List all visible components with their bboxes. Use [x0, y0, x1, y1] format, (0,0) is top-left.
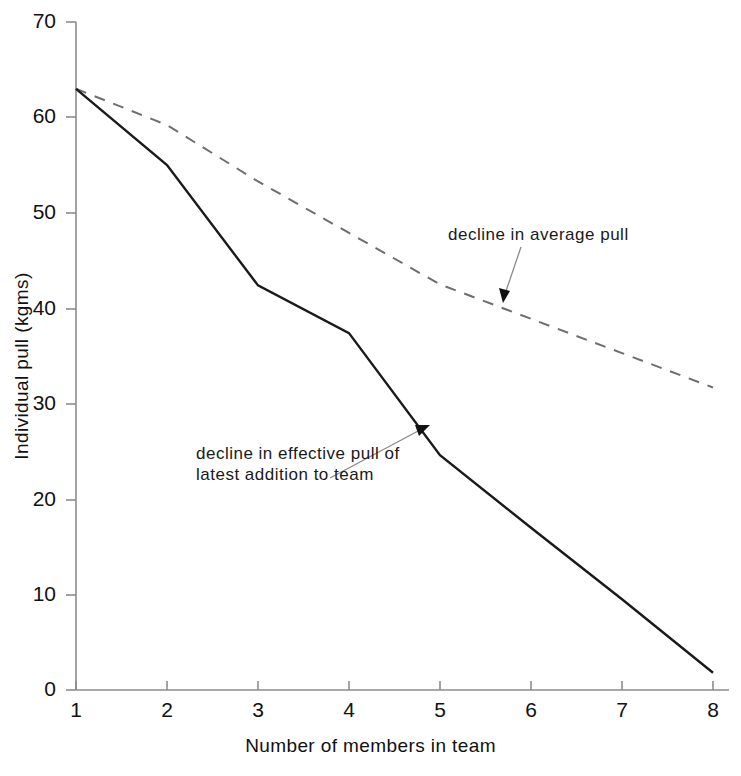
annotation-average-pull: decline in average pull	[448, 224, 629, 245]
y-tick-label-10: 10	[10, 582, 56, 606]
x-axis-title: Number of members in team	[0, 735, 741, 757]
x-tick-label-6: 6	[516, 698, 546, 722]
annotation-effective-pull-line1: decline in effective pull of	[196, 443, 400, 464]
annotation-leader-average-pull	[499, 247, 521, 303]
series-line-effective-pull	[76, 89, 713, 673]
x-tick-label-4: 4	[334, 698, 364, 722]
x-axis-ticks	[76, 681, 713, 690]
x-tick-label-5: 5	[425, 698, 455, 722]
y-axis-title: Individual pull (kgms)	[11, 196, 33, 536]
x-tick-label-3: 3	[243, 698, 273, 722]
x-tick-label-8: 8	[698, 698, 728, 722]
chart-plot-area	[0, 0, 741, 776]
x-tick-label-7: 7	[607, 698, 637, 722]
y-tick-label-0: 0	[10, 677, 56, 701]
annotation-effective-pull: decline in effective pull of latest addi…	[196, 443, 400, 486]
y-tick-label-60: 60	[10, 104, 56, 128]
annotation-effective-pull-line2: latest addition to team	[196, 464, 400, 485]
chart-container: 70 60 50 40 30 20 10 0 1 2 3 4 5 6 7 8 I…	[0, 0, 741, 776]
y-axis-ticks	[66, 22, 76, 690]
x-tick-label-2: 2	[152, 698, 182, 722]
x-tick-label-1: 1	[61, 698, 91, 722]
y-tick-label-70: 70	[10, 9, 56, 33]
